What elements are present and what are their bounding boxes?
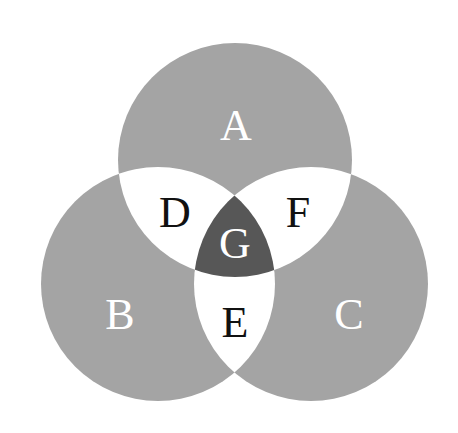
label-g: G [219, 219, 251, 268]
label-e: E [222, 298, 249, 347]
label-c: C [334, 290, 363, 339]
venn-diagram: A B C D E F G [0, 0, 458, 433]
label-d: D [159, 188, 191, 237]
label-b: B [105, 290, 134, 339]
label-f: F [286, 188, 310, 237]
label-a: A [220, 101, 252, 150]
